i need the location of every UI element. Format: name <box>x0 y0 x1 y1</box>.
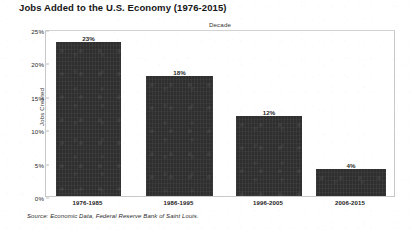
bar <box>146 76 213 196</box>
bar-value-label: 23% <box>56 35 121 42</box>
y-axis-tick-mark <box>46 198 49 199</box>
bar <box>56 42 121 196</box>
y-axis-tick-mark <box>46 97 49 98</box>
y-axis-tick-label: 5% <box>2 161 44 168</box>
y-axis-tick-mark <box>46 131 49 132</box>
y-axis-tick-mark <box>46 164 49 165</box>
x-axis-tick-label: 1976-1985 <box>55 200 120 206</box>
bar-value-label: 12% <box>236 109 302 116</box>
y-axis-tick-mark <box>46 31 49 32</box>
page-title: Jobs Added to the U.S. Economy (1976-201… <box>19 2 227 13</box>
y-axis-tick-label: 25% <box>2 28 44 35</box>
plot-area: Jobs Created 0%5%10%15%20%25% 23%18%12%4… <box>45 30 395 197</box>
x-axis-tick-label: 2006-2015 <box>315 200 385 206</box>
bar-value-label: 4% <box>316 162 386 169</box>
bar-value-label: 18% <box>146 69 213 76</box>
x-axis-tick-label: 1996-2005 <box>235 200 301 206</box>
x-axis-title: Decade <box>45 21 395 28</box>
bar <box>316 169 386 196</box>
x-axis-tick-label: 1986-1995 <box>145 200 212 206</box>
y-axis-tick-label: 20% <box>2 61 44 68</box>
y-axis-tick-mark <box>46 64 49 65</box>
source-note: Source: Economic Data, Federal Reserve B… <box>27 213 199 219</box>
y-axis-tick-label: 15% <box>2 94 44 101</box>
bar <box>236 116 302 196</box>
y-axis-tick-label: 10% <box>2 128 44 135</box>
y-axis-tick-label: 0% <box>2 195 44 202</box>
